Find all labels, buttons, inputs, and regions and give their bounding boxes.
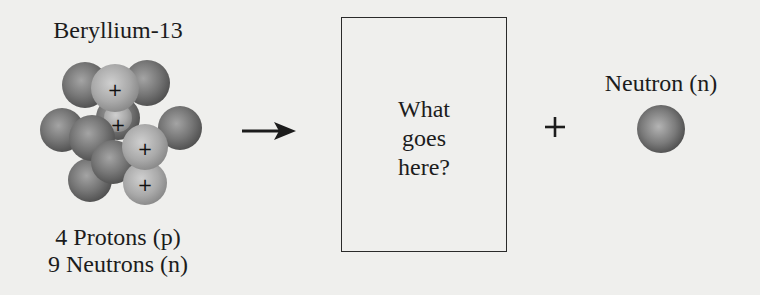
protons-count-label: 4 Protons (p): [0, 224, 236, 251]
proton-plus-icon: +: [137, 138, 152, 159]
unknown-product-question: What goes here?: [398, 95, 450, 182]
unknown-product-box: What goes here?: [341, 17, 507, 252]
neutrons-count-label: 9 Neutrons (n): [0, 251, 236, 278]
neutron-label: Neutron (n): [586, 70, 736, 97]
plus-icon: [541, 113, 569, 141]
beryllium-nucleus-illustration: + + + +: [30, 55, 210, 215]
question-line-3: here?: [398, 153, 450, 182]
particle-counts: 4 Protons (p) 9 Neutrons (n): [0, 224, 236, 278]
beryllium-13-label: Beryllium-13: [0, 17, 236, 44]
question-line-2: goes: [398, 124, 450, 153]
question-line-1: What: [398, 95, 450, 124]
proton-plus-icon: +: [137, 174, 152, 195]
reaction-arrow-icon: [240, 121, 298, 141]
neutron-sphere-icon: [636, 104, 686, 154]
proton-plus-icon: +: [107, 79, 122, 100]
